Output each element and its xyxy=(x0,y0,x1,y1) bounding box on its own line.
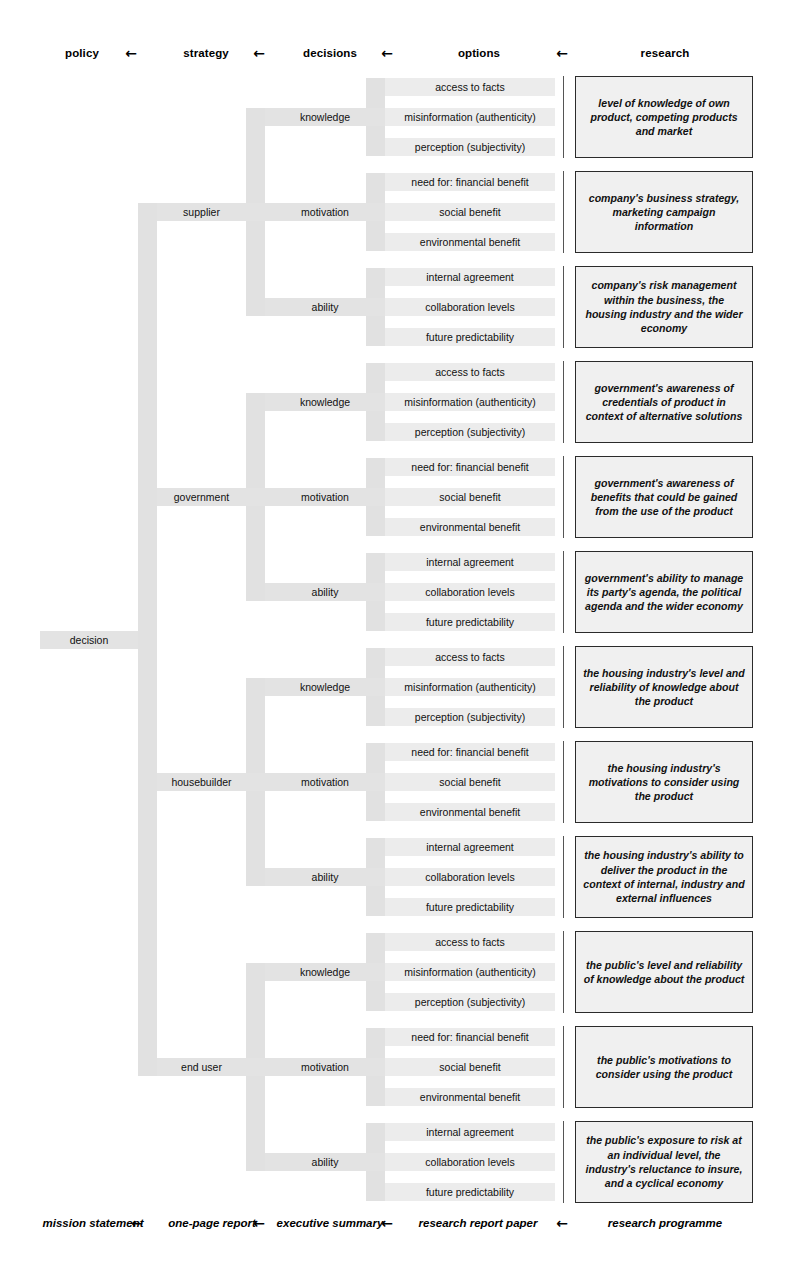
research-box-text: the housing industry's ability to delive… xyxy=(583,848,745,905)
option-band: collaboration levels xyxy=(385,1153,555,1171)
research-box: the housing industry's level and reliabi… xyxy=(575,646,753,728)
research-box: government's awareness of credentials of… xyxy=(575,361,753,443)
header-strategy: strategy xyxy=(183,47,229,59)
header-arrow-1: ← xyxy=(253,46,265,60)
option-band: need for: financial benefit xyxy=(385,1028,555,1046)
research-box: the public's level and reliability of kn… xyxy=(575,931,753,1013)
option-band: social benefit xyxy=(385,773,555,791)
decision-node: ability xyxy=(265,1153,385,1171)
research-box: government's awareness of benefits that … xyxy=(575,456,753,538)
research-box-text: the public's level and reliability of kn… xyxy=(583,958,745,987)
research-box-text: government's ability to manage its party… xyxy=(583,571,745,614)
footer-one-page-report: one-page report xyxy=(168,1217,256,1229)
header-decisions: decisions xyxy=(303,47,357,59)
research-box-text: the housing industry's motivations to co… xyxy=(583,761,745,804)
diagram-canvas: policystrategydecisionsoptionsresearch←←… xyxy=(0,0,792,1274)
header-options: options xyxy=(458,47,500,59)
option-band: misinformation (authenticity) xyxy=(385,678,555,696)
research-box-text: company's risk management within the bus… xyxy=(583,278,745,335)
option-band: future predictability xyxy=(385,613,555,631)
strategy-spine xyxy=(138,203,157,1076)
option-band: internal agreement xyxy=(385,553,555,571)
research-separator xyxy=(563,931,564,1013)
header-arrow-0: ← xyxy=(125,46,137,60)
option-band: environmental benefit xyxy=(385,518,555,536)
research-box: the public's exposure to risk at an indi… xyxy=(575,1121,753,1203)
header-research: research xyxy=(641,47,690,59)
footer-research-report-paper: research report paper xyxy=(419,1217,538,1229)
research-box-text: the public's motivations to consider usi… xyxy=(583,1053,745,1082)
research-separator xyxy=(563,76,564,158)
decision-node: knowledge xyxy=(265,108,385,126)
footer-arrow-1: ← xyxy=(253,1216,265,1230)
decision-node: motivation xyxy=(265,488,385,506)
option-band: future predictability xyxy=(385,898,555,916)
strategy-node: end user xyxy=(138,1058,265,1076)
option-band: perception (subjectivity) xyxy=(385,423,555,441)
option-band: collaboration levels xyxy=(385,868,555,886)
research-separator xyxy=(563,361,564,443)
decision-node: motivation xyxy=(265,1058,385,1076)
research-box-text: company's business strategy, marketing c… xyxy=(583,191,745,234)
research-separator xyxy=(563,1121,564,1203)
option-band: need for: financial benefit xyxy=(385,458,555,476)
option-band: environmental benefit xyxy=(385,803,555,821)
option-band: misinformation (authenticity) xyxy=(385,963,555,981)
research-box: government's ability to manage its party… xyxy=(575,551,753,633)
root-node: decision xyxy=(40,631,138,649)
research-box-text: the housing industry's level and reliabi… xyxy=(583,666,745,709)
option-band: access to facts xyxy=(385,648,555,666)
option-band: need for: financial benefit xyxy=(385,743,555,761)
option-band: perception (subjectivity) xyxy=(385,138,555,156)
option-band: access to facts xyxy=(385,363,555,381)
option-band: misinformation (authenticity) xyxy=(385,108,555,126)
research-box: level of knowledge of own product, compe… xyxy=(575,76,753,158)
option-band: social benefit xyxy=(385,488,555,506)
option-band: social benefit xyxy=(385,1058,555,1076)
header-policy: policy xyxy=(65,47,99,59)
header-arrow-3: ← xyxy=(556,46,568,60)
footer-arrow-2: ← xyxy=(381,1216,393,1230)
research-box-text: level of knowledge of own product, compe… xyxy=(583,96,745,139)
decision-node: ability xyxy=(265,583,385,601)
research-separator xyxy=(563,646,564,728)
decision-node: motivation xyxy=(265,773,385,791)
research-box-text: the public's exposure to risk at an indi… xyxy=(583,1133,745,1190)
option-band: collaboration levels xyxy=(385,583,555,601)
footer-research-programme: research programme xyxy=(608,1217,722,1229)
strategy-node: housebuilder xyxy=(138,773,265,791)
footer-arrow-3: ← xyxy=(556,1216,568,1230)
research-separator xyxy=(563,741,564,823)
research-box-text: government's awareness of benefits that … xyxy=(583,476,745,519)
research-separator xyxy=(563,551,564,633)
research-separator xyxy=(563,1026,564,1108)
footer-mission-statement: mission statement xyxy=(43,1217,144,1229)
research-box: the public's motivations to consider usi… xyxy=(575,1026,753,1108)
option-band: perception (subjectivity) xyxy=(385,993,555,1011)
research-separator xyxy=(563,836,564,918)
footer-executive-summary: executive summary xyxy=(277,1217,384,1229)
decision-node: knowledge xyxy=(265,963,385,981)
research-box-text: government's awareness of credentials of… xyxy=(583,381,745,424)
option-band: future predictability xyxy=(385,1183,555,1201)
research-separator xyxy=(563,456,564,538)
option-band: access to facts xyxy=(385,933,555,951)
research-box: company's risk management within the bus… xyxy=(575,266,753,348)
option-band: internal agreement xyxy=(385,268,555,286)
option-band: environmental benefit xyxy=(385,233,555,251)
option-band: perception (subjectivity) xyxy=(385,708,555,726)
research-box: the housing industry's motivations to co… xyxy=(575,741,753,823)
option-band: misinformation (authenticity) xyxy=(385,393,555,411)
strategy-node: government xyxy=(138,488,265,506)
option-band: social benefit xyxy=(385,203,555,221)
decision-node: ability xyxy=(265,298,385,316)
option-band: internal agreement xyxy=(385,838,555,856)
footer-arrow-0: ← xyxy=(131,1216,143,1230)
decision-node: ability xyxy=(265,868,385,886)
decision-node: motivation xyxy=(265,203,385,221)
decision-node: knowledge xyxy=(265,393,385,411)
option-band: future predictability xyxy=(385,328,555,346)
header-arrow-2: ← xyxy=(381,46,393,60)
option-band: internal agreement xyxy=(385,1123,555,1141)
option-band: environmental benefit xyxy=(385,1088,555,1106)
